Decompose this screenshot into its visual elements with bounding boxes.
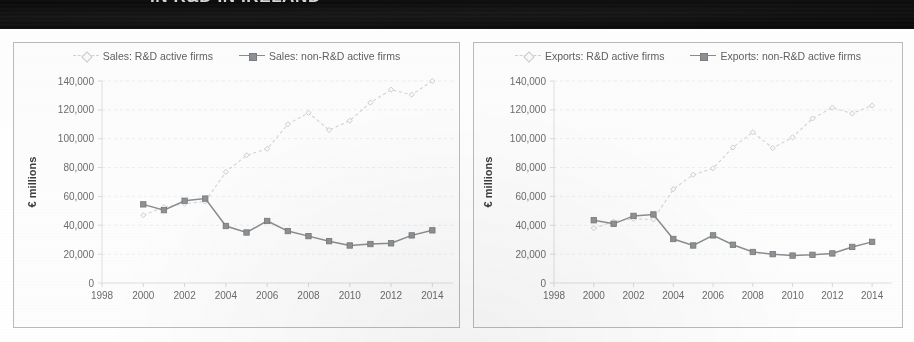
x-tick-label: 2000	[583, 290, 606, 301]
series-line-rd-active	[594, 106, 872, 229]
data-point-marker	[750, 249, 755, 254]
y-axis-title: € millions	[26, 157, 38, 208]
data-point-marker	[591, 226, 596, 231]
y-tick-label: 120,000	[510, 104, 547, 115]
data-point-marker	[368, 100, 373, 105]
y-tick-label: 20,000	[515, 249, 546, 260]
plot-svg-sales: 020,00040,00060,00080,000100,000120,0001…	[14, 43, 461, 329]
data-point-marker	[264, 218, 269, 223]
x-tick-label: 1998	[543, 290, 566, 301]
data-point-marker	[671, 236, 676, 241]
y-tick-label: 80,000	[515, 162, 546, 173]
x-tick-label: 2004	[662, 290, 685, 301]
y-tick-label: 60,000	[63, 191, 94, 202]
data-point-marker	[223, 169, 228, 174]
data-point-marker	[631, 213, 636, 218]
y-axis-title: € millions	[482, 157, 494, 208]
banner-texture-overlay	[0, 0, 914, 29]
data-point-marker	[368, 241, 373, 246]
data-point-marker	[870, 103, 875, 108]
series-line-rd-active	[143, 81, 432, 215]
data-point-marker	[430, 228, 435, 233]
data-point-marker	[388, 87, 393, 92]
x-tick-label: 2008	[297, 290, 320, 301]
data-point-marker	[326, 238, 331, 243]
data-point-marker	[141, 213, 146, 218]
data-point-marker	[161, 207, 166, 212]
data-point-marker	[830, 251, 835, 256]
data-point-marker	[203, 196, 208, 201]
data-point-marker	[710, 233, 715, 238]
series-line-non-rd-active	[143, 199, 432, 246]
x-tick-label: 2014	[861, 290, 884, 301]
data-point-marker	[182, 198, 187, 203]
x-tick-label: 2002	[622, 290, 645, 301]
chart-area-exports: Exports: R&D active firms Exports: non-R…	[474, 43, 902, 327]
y-tick-label: 100,000	[58, 133, 95, 144]
data-point-marker	[770, 145, 775, 150]
chart-area-sales: Sales: R&D active firms Sales: non-R&D a…	[14, 43, 459, 327]
data-point-marker	[141, 202, 146, 207]
data-point-marker	[244, 230, 249, 235]
data-point-marker	[285, 228, 290, 233]
top-banner: IN R&D IN IRELAND	[0, 0, 914, 29]
data-point-marker	[347, 243, 352, 248]
x-tick-label: 2012	[821, 290, 844, 301]
data-point-marker	[651, 212, 656, 217]
x-tick-label: 2002	[173, 290, 196, 301]
data-point-marker	[850, 244, 855, 249]
data-point-marker	[306, 110, 311, 115]
data-point-marker	[790, 135, 795, 140]
data-point-marker	[409, 233, 414, 238]
plot-svg-exports: 020,00040,00060,00080,000100,000120,0001…	[474, 43, 904, 329]
data-point-marker	[388, 241, 393, 246]
data-point-marker	[306, 233, 311, 238]
data-point-marker	[770, 251, 775, 256]
y-tick-label: 0	[540, 278, 546, 289]
y-tick-label: 140,000	[58, 76, 95, 87]
x-tick-label: 2006	[702, 290, 725, 301]
data-point-marker	[690, 243, 695, 248]
y-tick-label: 40,000	[515, 220, 546, 231]
data-point-marker	[265, 146, 270, 151]
y-tick-label: 100,000	[510, 133, 547, 144]
y-tick-label: 0	[88, 278, 94, 289]
x-tick-label: 2000	[132, 290, 155, 301]
data-point-marker	[285, 122, 290, 127]
x-tick-label: 2014	[421, 290, 444, 301]
data-point-marker	[790, 253, 795, 258]
y-tick-label: 80,000	[63, 162, 94, 173]
data-point-marker	[810, 252, 815, 257]
x-tick-label: 2012	[380, 290, 403, 301]
data-point-marker	[409, 92, 414, 97]
data-point-marker	[869, 239, 874, 244]
x-tick-label: 2006	[256, 290, 279, 301]
y-tick-label: 140,000	[510, 76, 547, 87]
data-point-marker	[850, 111, 855, 116]
x-tick-label: 2010	[339, 290, 362, 301]
y-tick-label: 120,000	[58, 104, 95, 115]
data-point-marker	[591, 218, 596, 223]
data-point-marker	[611, 221, 616, 226]
y-tick-label: 40,000	[63, 220, 94, 231]
data-point-marker	[730, 242, 735, 247]
x-tick-label: 2008	[742, 290, 765, 301]
y-tick-label: 20,000	[63, 249, 94, 260]
x-tick-label: 2004	[215, 290, 238, 301]
x-tick-label: 2010	[781, 290, 804, 301]
data-point-marker	[223, 223, 228, 228]
chart-panel-sales: Sales: R&D active firms Sales: non-R&D a…	[13, 42, 460, 328]
top-banner-title: IN R&D IN IRELAND	[150, 0, 321, 7]
x-tick-label: 1998	[91, 290, 114, 301]
chart-panel-exports: Exports: R&D active firms Exports: non-R…	[473, 42, 903, 328]
y-tick-label: 60,000	[515, 191, 546, 202]
series-line-non-rd-active	[594, 214, 872, 255]
